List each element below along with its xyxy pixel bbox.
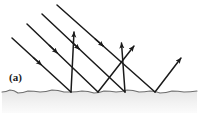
incident-ray-3-arrowhead: [71, 41, 80, 49]
reflected-ray-group: [71, 32, 181, 92]
panel-label: (a): [9, 71, 22, 84]
figure-panel-a: (a): [0, 0, 199, 113]
ray-diagram-canvas: [0, 0, 199, 113]
substrate-fill: [2, 90, 197, 113]
reflected-ray-3: [122, 43, 126, 92]
incident-ray-3: [42, 14, 125, 92]
incident-ray-1-arrowhead: [33, 57, 42, 65]
incident-ray-group: [12, 5, 155, 92]
incident-ray-2-arrowhead: [49, 45, 58, 53]
incident-ray-4-arrowhead: [95, 39, 104, 47]
reflected-ray-4: [155, 58, 181, 92]
